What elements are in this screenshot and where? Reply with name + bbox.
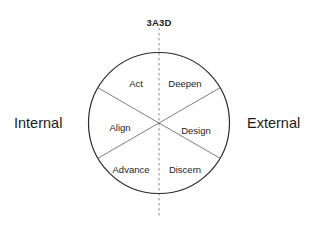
sector-label-align: Align xyxy=(109,123,130,133)
pole-label-internal: Internal xyxy=(14,116,62,131)
sector-label-advance: Advance xyxy=(113,165,150,175)
axis-title: 3A3D xyxy=(146,18,171,28)
sector-label-discern: Discern xyxy=(169,165,201,175)
sector-label-act: Act xyxy=(129,79,143,89)
diagram-canvas: 3A3D Internal External Act Deepen Align … xyxy=(0,0,318,237)
sector-label-design: Design xyxy=(181,126,211,136)
pole-label-external: External xyxy=(247,116,300,131)
sector-label-deepen: Deepen xyxy=(168,79,201,89)
